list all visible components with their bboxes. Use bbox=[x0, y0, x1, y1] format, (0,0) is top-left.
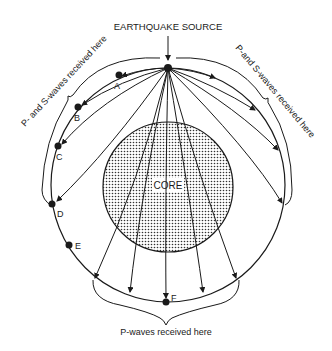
earthquake-source-label: EARTHQUAKE SOURCE bbox=[114, 21, 223, 32]
bottom-brace-label: P-waves received here bbox=[120, 327, 212, 337]
left-brace-label: P- and S-waves received here bbox=[19, 33, 109, 128]
right-brace-label: P-and S-waves received here bbox=[233, 43, 317, 140]
station-a-label: A bbox=[114, 81, 120, 91]
core-label: CORE bbox=[154, 180, 183, 191]
station-c-point bbox=[55, 143, 62, 150]
station-b-point bbox=[75, 104, 82, 111]
station-e-point bbox=[66, 242, 73, 249]
station-e-label: E bbox=[75, 241, 81, 251]
station-b-label: B bbox=[74, 113, 80, 123]
station-a-point bbox=[116, 72, 123, 79]
station-d-label: D bbox=[57, 209, 64, 219]
earthquake-wave-diagram: CORE EARTHQUAKE SOURCE A B C D E bbox=[0, 0, 332, 351]
station-f-point bbox=[163, 299, 170, 306]
station-c-label: C bbox=[56, 152, 63, 162]
station-f-label: F bbox=[171, 293, 177, 303]
